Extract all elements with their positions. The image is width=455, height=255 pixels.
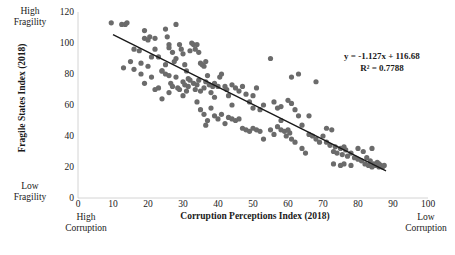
scatter-point	[156, 85, 161, 90]
y-tick-label: 120	[50, 7, 74, 17]
scatter-chart: High Fragility Low Fragility High Corrup…	[0, 0, 455, 255]
x-axis-tick-labels: 0102030405060708090100	[0, 199, 455, 213]
plot-area	[78, 12, 428, 198]
scatter-point	[254, 85, 259, 90]
scatter-point	[187, 48, 192, 53]
scatter-point	[219, 112, 224, 117]
scatter-point	[229, 102, 234, 107]
scatter-point	[166, 73, 171, 78]
scatter-point	[215, 116, 220, 121]
scatter-point	[268, 56, 273, 61]
scatter-point	[177, 42, 182, 47]
scatter-point	[340, 152, 345, 157]
x-tick-label: 60	[273, 199, 303, 209]
scatter-point	[145, 64, 150, 69]
scatter-point	[212, 95, 217, 100]
scatter-point	[324, 126, 329, 131]
scatter-point	[173, 75, 178, 80]
scatter-point	[341, 161, 346, 166]
scatter-point	[303, 150, 308, 155]
scatter-point	[287, 130, 292, 135]
scatter-point	[166, 45, 171, 50]
scatter-point	[306, 113, 311, 118]
scatter-point	[193, 87, 198, 92]
scatter-point	[180, 93, 185, 98]
x-axis-right-annotation: Low Corruption	[398, 212, 454, 234]
scatter-point	[121, 65, 126, 70]
x-tick-label: 70	[308, 199, 338, 209]
scatter-point	[163, 62, 168, 67]
scatter-point	[182, 62, 187, 67]
scatter-point	[329, 127, 334, 132]
x-tick-label: 80	[343, 199, 373, 209]
y-tick-label: 100	[50, 38, 74, 48]
scatter-point	[173, 22, 178, 27]
scatter-point	[317, 140, 322, 145]
scatter-point	[173, 56, 178, 61]
scatter-point	[194, 99, 199, 104]
scatter-point	[205, 73, 210, 78]
scatter-point	[261, 102, 266, 107]
scatter-point	[128, 59, 133, 64]
scatter-point	[240, 84, 245, 89]
scatter-point	[289, 75, 294, 80]
scatter-point	[180, 51, 185, 56]
x-tick-label: 10	[98, 199, 128, 209]
scatter-point	[159, 96, 164, 101]
regression-equation: y = -1.127x + 116.68	[316, 50, 448, 62]
scatter-point	[194, 42, 199, 47]
scatter-point	[184, 88, 189, 93]
scatter-point	[271, 99, 276, 104]
x-tick-label: 20	[133, 199, 163, 209]
scatter-point	[201, 112, 206, 117]
scatter-point	[170, 50, 175, 55]
scatter-point	[208, 90, 213, 95]
scatter-point	[142, 28, 147, 33]
scatter-point	[296, 113, 301, 118]
scatter-point	[142, 81, 147, 86]
scatter-point	[208, 106, 213, 111]
scatter-point	[278, 104, 283, 109]
scatter-point	[186, 84, 191, 89]
x-tick-label: 90	[378, 199, 408, 209]
scatter-point	[131, 67, 136, 72]
scatter-point	[194, 82, 199, 87]
y-axis-tick-labels: 020406080100120	[48, 0, 74, 255]
x-tick-label: 30	[168, 199, 198, 209]
y-tick-label: 80	[50, 69, 74, 79]
scatter-point	[296, 71, 301, 76]
scatter-point	[179, 47, 184, 52]
scatter-point	[149, 75, 154, 80]
scatter-point	[163, 26, 168, 31]
scatter-point	[382, 163, 387, 168]
y-tick-label: 20	[50, 162, 74, 172]
scatter-point	[138, 61, 143, 66]
y-tick-label: 60	[50, 100, 74, 110]
r-squared-value: R² = 0.7788	[316, 62, 448, 74]
scatter-point	[355, 146, 360, 151]
scatter-point	[222, 121, 227, 126]
x-tick-label: 100	[413, 199, 443, 209]
scatter-point	[331, 161, 336, 166]
scatter-point	[348, 163, 353, 168]
x-tick-label: 0	[63, 199, 93, 209]
scatter-point	[289, 101, 294, 106]
scatter-point	[124, 20, 129, 25]
scatter-point	[369, 146, 374, 151]
scatter-point	[299, 146, 304, 151]
scatter-point	[334, 150, 339, 155]
x-tick-label: 40	[203, 199, 233, 209]
scatter-point	[165, 34, 170, 39]
scatter-point	[261, 137, 266, 142]
scatter-point	[177, 87, 182, 92]
scatter-point	[196, 50, 201, 55]
scatter-point	[131, 47, 136, 52]
scatter-point	[198, 107, 203, 112]
scatter-point	[145, 37, 150, 42]
scatter-point	[236, 116, 241, 121]
scatter-point	[170, 84, 175, 89]
scatter-point	[361, 149, 366, 154]
scatter-point	[166, 90, 171, 95]
scatter-point	[236, 88, 241, 93]
scatter-point	[268, 127, 273, 132]
